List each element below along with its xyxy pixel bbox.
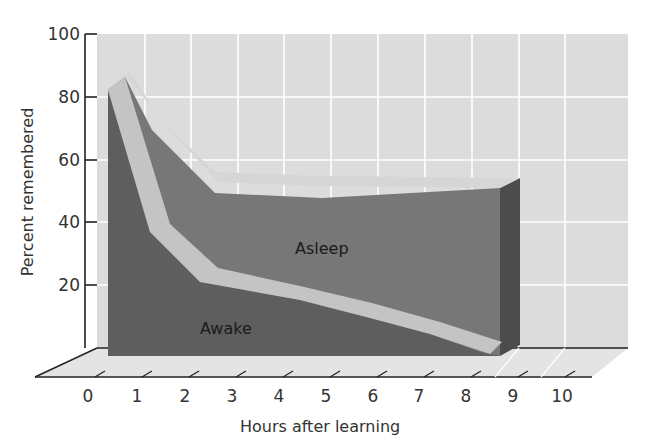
x-axis-title: Hours after learning (240, 417, 400, 436)
forgetting-curve-chart: 100 80 60 40 20 Percent remembered Aslee… (0, 0, 664, 446)
x-tick-2: 2 (180, 386, 191, 406)
asleep-label: Asleep (295, 239, 349, 258)
y-axis-title: Percent remembered (18, 108, 37, 277)
x-axis: 0 1 2 3 4 5 6 7 8 9 10 Hours after learn… (83, 386, 573, 436)
y-tick-40: 40 (58, 212, 80, 232)
x-tick-1: 1 (132, 386, 143, 406)
x-tick-4: 4 (274, 386, 285, 406)
x-tick-5: 5 (321, 386, 332, 406)
y-tick-20: 20 (58, 275, 80, 295)
y-tick-60: 60 (58, 150, 80, 170)
awake-label: Awake (200, 319, 252, 338)
x-tick-8: 8 (461, 386, 472, 406)
x-tick-9: 9 (508, 386, 519, 406)
y-tick-80: 80 (58, 87, 80, 107)
y-axis: 100 80 60 40 20 Percent remembered (18, 24, 97, 348)
y-tick-100: 100 (48, 24, 80, 44)
x-tick-6: 6 (368, 386, 379, 406)
x-tick-7: 7 (414, 386, 425, 406)
x-tick-10: 10 (551, 386, 573, 406)
x-tick-0: 0 (83, 386, 94, 406)
x-tick-3: 3 (227, 386, 238, 406)
